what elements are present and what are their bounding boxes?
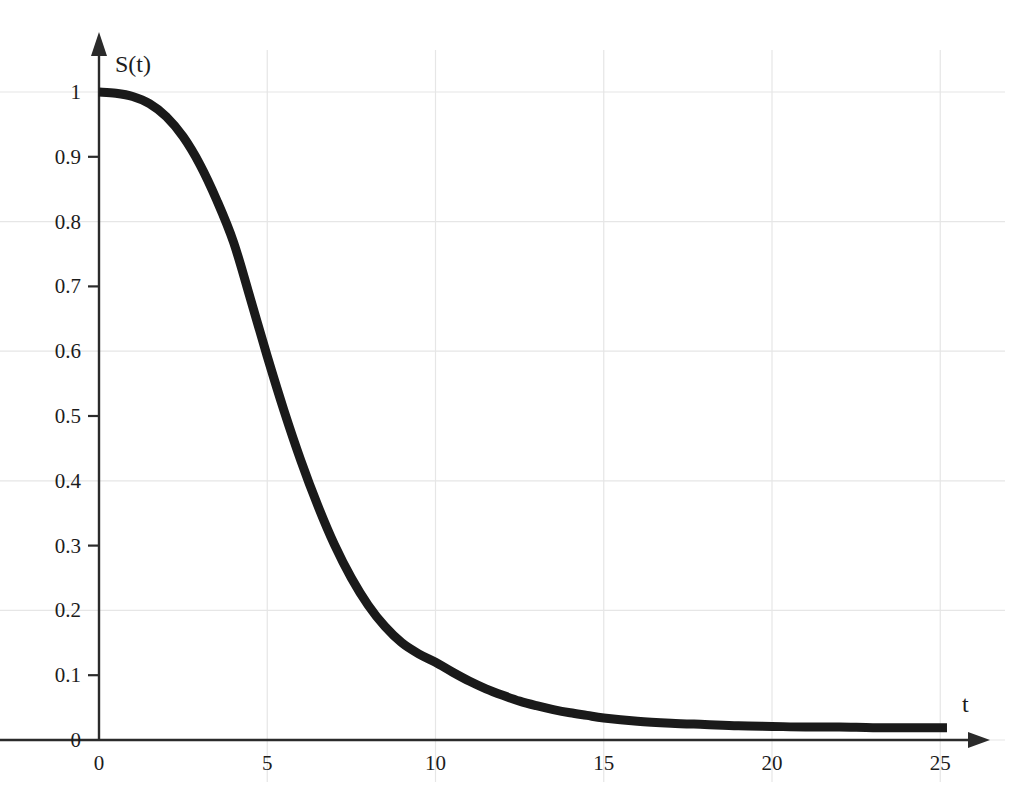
y-tick-label: 0.1 bbox=[55, 663, 81, 687]
y-tick-label: 1 bbox=[71, 80, 82, 104]
data-series-curve bbox=[99, 92, 947, 728]
y-axis-arrowhead bbox=[91, 32, 107, 56]
y-axis-title: S(t) bbox=[115, 51, 151, 77]
x-tick-label: 25 bbox=[930, 751, 951, 775]
y-tick-label: 0.4 bbox=[55, 469, 82, 493]
y-axis-tickmarks bbox=[88, 157, 99, 675]
x-tick-label: 5 bbox=[262, 751, 273, 775]
x-tick-label: 10 bbox=[425, 751, 446, 775]
x-axis-title: t bbox=[962, 691, 969, 717]
y-tick-label: 0.7 bbox=[55, 274, 81, 298]
x-tick-label: 0 bbox=[94, 751, 105, 775]
gridlines-vertical bbox=[267, 50, 940, 782]
survival-curve-plot: 00.10.20.30.40.50.60.70.80.91 0510152025… bbox=[0, 0, 1013, 807]
y-tick-label: 0.3 bbox=[55, 534, 81, 558]
y-tick-label: 0 bbox=[71, 728, 82, 752]
x-axis-line bbox=[0, 732, 990, 748]
y-tick-label: 0.6 bbox=[55, 339, 81, 363]
series-line-S(t) bbox=[99, 92, 947, 728]
y-tick-label: 0.8 bbox=[55, 210, 81, 234]
x-tick-label: 15 bbox=[593, 751, 614, 775]
x-tick-label: 20 bbox=[762, 751, 783, 775]
y-tick-label: 0.9 bbox=[55, 145, 81, 169]
y-axis-line bbox=[91, 32, 107, 740]
x-axis-arrowhead bbox=[968, 732, 990, 748]
y-axis-tick-labels: 00.10.20.30.40.50.60.70.80.91 bbox=[55, 80, 82, 752]
chart-container: 00.10.20.30.40.50.60.70.80.91 0510152025… bbox=[0, 0, 1013, 807]
y-tick-label: 0.5 bbox=[55, 404, 81, 428]
gridlines-horizontal bbox=[0, 92, 1005, 740]
x-axis-tick-labels: 0510152025 bbox=[94, 751, 951, 775]
y-tick-label: 0.2 bbox=[55, 598, 81, 622]
